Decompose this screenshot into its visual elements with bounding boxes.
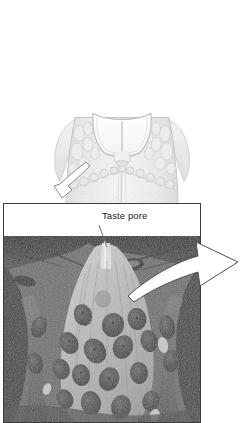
taste-pore-label: Taste pore (102, 210, 147, 221)
tongue-illustration-panel (0, 0, 244, 200)
micrograph-svg (3, 203, 201, 423)
anatomy-figure: Taste pore (0, 0, 244, 423)
taste-bud-micrograph-panel: Taste pore (3, 203, 201, 423)
tissue-section (3, 236, 201, 423)
